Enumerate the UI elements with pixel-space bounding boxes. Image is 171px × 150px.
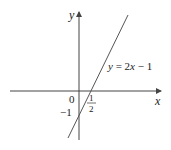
equation-label: y = 2x − 1 [107,60,152,72]
graph: y x 0 −1 1 2 y = 2x − 1 [0,0,171,150]
y-axis-label: y [68,8,75,22]
y-intercept-label: −1 [60,106,72,118]
x-axis-label: x [154,94,161,108]
function-line [68,15,128,138]
svg-text:2: 2 [89,104,94,114]
x-intercept-fraction: 1 2 [87,93,96,114]
svg-text:1: 1 [89,93,94,103]
origin-label: 0 [69,93,75,105]
